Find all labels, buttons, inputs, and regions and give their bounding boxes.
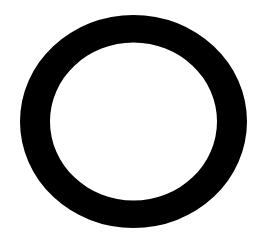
ring-canvas [0, 0, 264, 234]
black-ring-shape [20, 15, 247, 228]
